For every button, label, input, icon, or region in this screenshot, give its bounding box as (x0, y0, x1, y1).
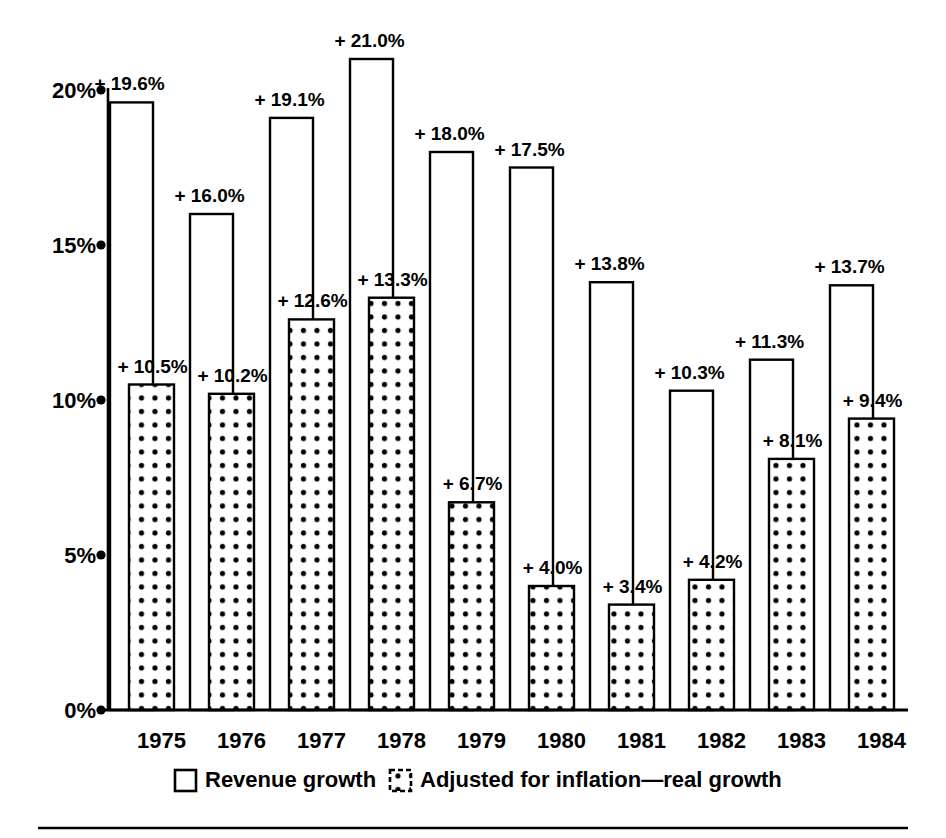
legend-swatch-real-growth (390, 770, 411, 791)
y-tick-bullet (96, 550, 105, 559)
real-growth-bar[interactable] (609, 605, 654, 710)
real-growth-bar[interactable] (129, 385, 174, 711)
y-tick-label: 10% (52, 388, 96, 413)
x-tick-label-1980: 1980 (537, 728, 586, 753)
real-growth-value-label: + 9.4% (843, 390, 903, 411)
x-tick-label-1979: 1979 (457, 728, 506, 753)
y-tick-bullet (96, 395, 105, 404)
bar-group: + 11.3%+ 8.1% (735, 331, 823, 710)
real-growth-value-label: + 12.6% (277, 290, 347, 311)
bar-group: + 19.1%+ 12.6% (254, 89, 347, 710)
bar-group: + 17.5%+ 4.0% (494, 139, 582, 711)
real-growth-bar[interactable] (689, 580, 734, 710)
bar-group: + 13.7%+ 9.4% (814, 256, 902, 710)
bar-group: + 10.3%+ 4.2% (654, 362, 742, 710)
real-growth-bar[interactable] (209, 394, 254, 710)
revenue-growth-value-label: + 18.0% (414, 123, 484, 144)
y-tick-label: 20% (52, 78, 96, 103)
real-growth-value-label: + 4.0% (523, 557, 583, 578)
chart-figure: 0%5%10%15%20% + 19.6%+ 10.5%+ 16.0%+ 10.… (0, 0, 946, 838)
chart-legend: Revenue growthAdjusted for inflation—rea… (175, 767, 782, 792)
x-tick-label-1976: 1976 (217, 728, 266, 753)
revenue-growth-value-label: + 16.0% (174, 185, 244, 206)
revenue-growth-value-label: + 11.3% (735, 331, 804, 352)
y-tick-label: 5% (64, 543, 96, 568)
x-tick-label-1978: 1978 (377, 728, 426, 753)
x-tick-label-1982: 1982 (697, 728, 746, 753)
real-growth-value-label: + 10.5% (117, 356, 187, 377)
legend-label-real-growth: Adjusted for inflation—real growth (420, 767, 782, 792)
real-growth-value-label: + 10.2% (197, 365, 267, 386)
x-tick-label-1984: 1984 (857, 728, 907, 753)
real-growth-bar[interactable] (849, 419, 894, 710)
real-growth-bar[interactable] (769, 459, 814, 710)
x-axis: 1975197619771978197919801981198219831984 (104, 710, 908, 753)
revenue-growth-value-label: + 13.8% (574, 253, 644, 274)
x-tick-label-1975: 1975 (137, 728, 186, 753)
y-axis: 0%5%10%15%20% (52, 78, 108, 723)
x-tick-label-1977: 1977 (297, 728, 346, 753)
bar-group: + 16.0%+ 10.2% (174, 185, 267, 710)
x-tick-label-1983: 1983 (777, 728, 826, 753)
revenue-growth-value-label: + 10.3% (654, 362, 724, 383)
bar-chart-canvas: 0%5%10%15%20% + 19.6%+ 10.5%+ 16.0%+ 10.… (0, 0, 946, 838)
y-tick-label: 0% (64, 698, 96, 723)
legend-swatch-revenue-growth (175, 770, 196, 791)
real-growth-value-label: + 6.7% (443, 473, 503, 494)
revenue-growth-value-label: + 13.7% (814, 256, 884, 277)
y-tick-label: 15% (52, 233, 96, 258)
real-growth-bar[interactable] (449, 502, 494, 710)
real-growth-value-label: + 13.3% (357, 269, 427, 290)
real-growth-bar[interactable] (289, 319, 334, 710)
bar-group: + 13.8%+ 3.4% (574, 253, 662, 710)
real-growth-bar[interactable] (369, 298, 414, 710)
real-growth-bar[interactable] (529, 586, 574, 710)
legend-label-revenue-growth: Revenue growth (205, 767, 376, 792)
y-tick-bullet (96, 240, 105, 249)
real-growth-value-label: + 4.2% (683, 551, 743, 572)
revenue-growth-value-label: + 19.1% (254, 89, 324, 110)
bar-group: + 18.0%+ 6.7% (414, 123, 502, 710)
plot-area: + 19.6%+ 10.5%+ 16.0%+ 10.2%+ 19.1%+ 12.… (94, 30, 902, 710)
x-tick-label-1981: 1981 (617, 728, 666, 753)
real-growth-value-label: + 8.1% (763, 430, 823, 451)
real-growth-value-label: + 3.4% (603, 576, 663, 597)
revenue-growth-value-label: + 17.5% (494, 139, 564, 160)
revenue-growth-value-label: + 21.0% (334, 30, 404, 51)
revenue-growth-value-label: + 19.6% (94, 73, 164, 94)
